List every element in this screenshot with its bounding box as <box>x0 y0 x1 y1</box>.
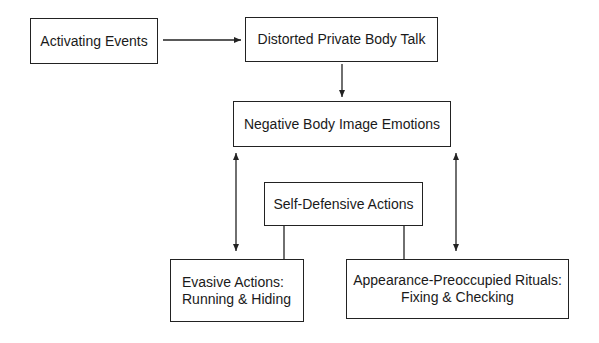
node-negative-body-image-emotions: Negative Body Image Emotions <box>233 101 451 147</box>
node-label-line2: Fixing & Checking <box>353 289 562 306</box>
node-appearance-preoccupied-rituals: Appearance-Preoccupied Rituals: Fixing &… <box>346 259 569 319</box>
node-distorted-private-body-talk: Distorted Private Body Talk <box>245 17 438 62</box>
node-label: Self-Defensive Actions <box>273 196 413 213</box>
node-label: Negative Body Image Emotions <box>244 116 440 133</box>
node-self-defensive-actions: Self-Defensive Actions <box>264 182 423 226</box>
node-label: Distorted Private Body Talk <box>258 31 426 48</box>
node-label-line2: Running & Hiding <box>182 291 291 308</box>
node-label-line1: Evasive Actions: <box>182 274 291 291</box>
node-evasive-actions: Evasive Actions: Running & Hiding <box>170 259 304 322</box>
node-label-line1: Appearance-Preoccupied Rituals: <box>353 272 562 289</box>
node-label: Activating Events <box>40 33 147 50</box>
node-activating-events: Activating Events <box>30 18 158 64</box>
